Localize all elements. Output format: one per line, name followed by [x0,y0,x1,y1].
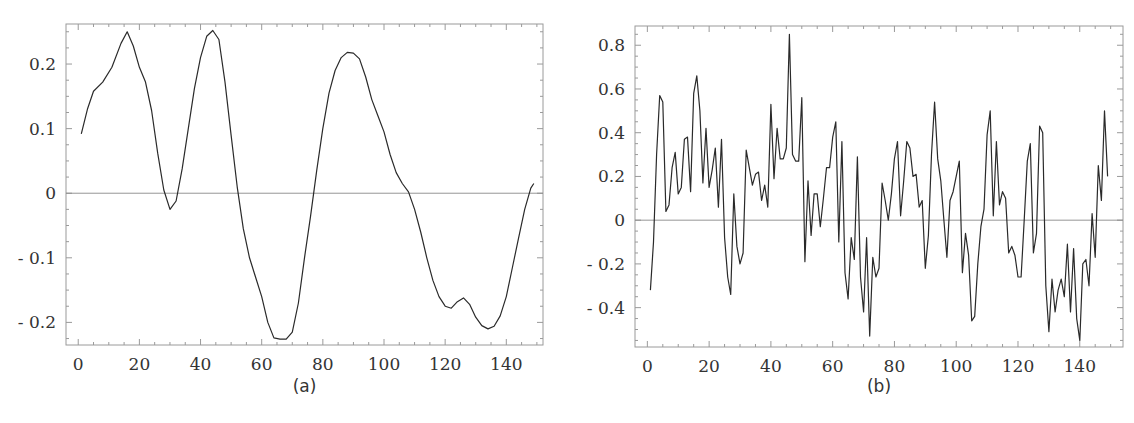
x-tick-label: 20 [129,354,151,374]
y-tick-label: 0.2 [598,166,625,186]
x-tick-label: 0 [642,356,653,376]
y-tick-label: - 0.1 [18,248,56,268]
x-tick-label: 100 [368,354,400,374]
x-tick-label: 140 [1064,356,1096,376]
y-tick-label: - 0.2 [587,254,625,274]
x-tick-label: 60 [822,356,844,376]
y-tick-label: 0.1 [29,119,56,139]
x-tick-label: 100 [940,356,972,376]
x-tick-label: 140 [490,354,522,374]
plot-frame [66,24,543,345]
y-tick-label: 0.8 [598,35,625,55]
x-tick-label: 120 [1002,356,1034,376]
chart-caption: (a) [293,376,317,396]
y-tick-label: 0 [614,210,625,230]
y-tick-label: - 0.4 [587,298,625,318]
x-tick-label: 40 [190,354,212,374]
x-tick-label: 80 [312,354,334,374]
y-tick-label: 0.6 [598,79,625,99]
data-series-line [650,34,1107,340]
chart-b-plot: 020406080100120140- 0.4- 0.200.20.40.60.… [570,0,1134,423]
data-series-line [81,31,534,340]
x-tick-label: 20 [698,356,720,376]
chart-a: 020406080100120140- 0.2- 0.100.10.2(a) [0,0,560,423]
y-tick-label: - 0.2 [18,312,56,332]
chart-b: 020406080100120140- 0.4- 0.200.20.40.60.… [570,0,1134,423]
y-tick-label: 0.2 [29,54,56,74]
x-tick-label: 60 [251,354,273,374]
y-tick-label: 0 [45,183,56,203]
y-tick-label: 0.4 [598,123,625,143]
chart-caption: (b) [867,376,891,396]
x-tick-label: 0 [73,354,84,374]
plot-frame [635,26,1123,347]
x-tick-label: 80 [884,356,906,376]
x-tick-label: 120 [429,354,461,374]
chart-a-plot: 020406080100120140- 0.2- 0.100.10.2(a) [0,0,560,423]
x-tick-label: 40 [760,356,782,376]
